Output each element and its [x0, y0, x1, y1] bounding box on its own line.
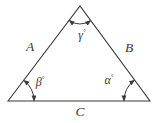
angle-label-gamma: γ° [78, 28, 86, 42]
side-label-a: A [25, 39, 35, 54]
side-label-b: B [125, 40, 133, 55]
angle-label-alpha: α° [105, 73, 114, 87]
angle-label-beta-symbol: β [35, 75, 42, 89]
angle-arc-gamma [69, 20, 91, 24]
angle-arc-beta [24, 80, 34, 101]
degree-mark: ° [42, 75, 45, 82]
side-label-c: C [75, 104, 85, 119]
degree-mark: ° [83, 28, 86, 35]
triangle-diagram: A B C γ° β° α° [0, 0, 159, 123]
diagram-canvas: A B C γ° β° α° [0, 0, 159, 123]
angle-label-beta: β° [35, 75, 45, 89]
angle-arc-alpha [124, 80, 135, 101]
degree-mark: ° [111, 73, 114, 80]
